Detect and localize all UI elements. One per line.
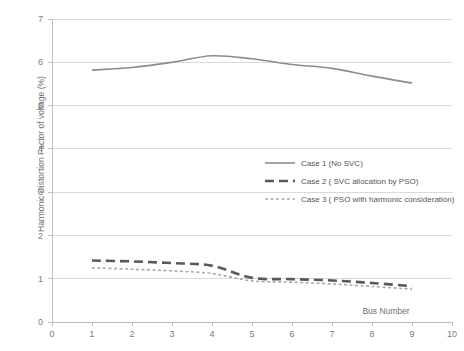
legend-label-case-2: Case 2 ( SVC allocation by PSO) — [301, 177, 419, 186]
x-tick-label-7: 7 — [329, 329, 334, 339]
y-tick-label-7: 7 — [38, 14, 43, 24]
y-tick-label-0: 0 — [38, 317, 43, 327]
chart-background — [0, 0, 464, 351]
legend-label-case-1: Case 1 (No SVC) — [301, 159, 363, 168]
x-tick-label-8: 8 — [369, 329, 374, 339]
x-tick-label-5: 5 — [249, 329, 254, 339]
y-tick-label-6: 6 — [38, 57, 43, 67]
harmonic-distortion-line-chart: 01234567 012345678910 Harmonic Distortio… — [0, 0, 464, 351]
x-tick-label-10: 10 — [447, 329, 457, 339]
y-axis-title: Harmonic Distortion Factor of voltage (%… — [36, 76, 46, 232]
legend-label-case-3: Case 3 ( PSO with harmonic consideration… — [301, 195, 455, 204]
y-tick-label-1: 1 — [38, 274, 43, 284]
x-tick-label-3: 3 — [169, 329, 174, 339]
x-tick-label-4: 4 — [209, 329, 214, 339]
x-axis-title: Bus Number — [362, 306, 409, 316]
chart-container: 01234567 012345678910 Harmonic Distortio… — [0, 0, 464, 351]
x-tick-label-9: 9 — [409, 329, 414, 339]
x-tick-label-6: 6 — [289, 329, 294, 339]
x-tick-label-0: 0 — [49, 329, 54, 339]
x-tick-label-1: 1 — [89, 329, 94, 339]
x-tick-label-2: 2 — [129, 329, 134, 339]
